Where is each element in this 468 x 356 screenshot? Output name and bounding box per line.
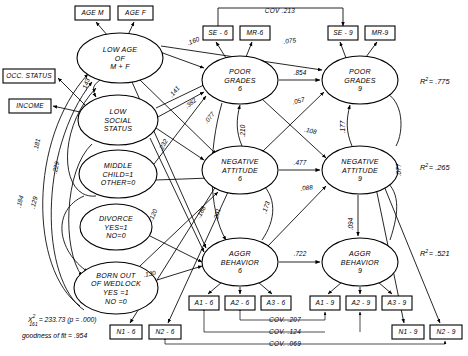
latent-label-line: 9 (358, 85, 362, 93)
indicator-node-n1-9[interactable]: N1 - 9 (392, 325, 424, 339)
latent-label-line: OTHER=0 (101, 179, 136, 187)
indicator-node-mr-6[interactable]: MR-6 (240, 26, 270, 40)
chi-sub: 161 (29, 321, 38, 327)
path-coefficient-coef-aggr-6-neg-att-9: .088 (300, 183, 314, 192)
indicator-node-se-6[interactable]: SE - 6 (203, 26, 233, 40)
path-coefficient-coef-low-age-poor-grades-9: .075 (283, 36, 297, 45)
latent-node-low-age[interactable]: LOW AGEOFM + F (77, 33, 163, 83)
latent-label-line: SOCIAL (104, 117, 132, 125)
edge-poorgrades6-se6 (216, 42, 226, 58)
edge-cov-069 (165, 341, 445, 344)
path-coefficient-coef-wedlock-120: .120 (147, 207, 159, 222)
indicator-node-n1-6[interactable]: N1 - 6 (110, 325, 142, 339)
r2-exponent: 2 (424, 76, 428, 82)
edge-aggr6-a3 (258, 282, 272, 294)
indicator-node-a1-6[interactable]: A1 - 6 (189, 296, 219, 310)
indicator-node-mr-9[interactable]: MR-9 (365, 26, 395, 40)
latent-label-line: LOW (110, 108, 128, 116)
edge-poorgrades9-mr9 (366, 42, 377, 57)
edge-poorgrades6-mr6 (246, 42, 252, 57)
indicator-node-age-m[interactable]: AGE M (75, 6, 110, 20)
fit-statistics: X2161= 233.73 (p = .000) goodness of fit… (22, 313, 97, 340)
latent-node-divorce[interactable]: DIVORCEYES=1NO=0 (80, 204, 152, 250)
edge-aggr9-a3 (378, 282, 392, 294)
indicator-node-n2-6[interactable]: N2 - 6 (149, 325, 181, 339)
latent-label-line: ATTITUDE (341, 167, 378, 175)
latent-node-aggr-behavior-6[interactable]: AGGRBEHAVIOR6 (202, 238, 278, 286)
latent-label-line: 6 (238, 175, 242, 183)
indicator-label: INCOME (16, 102, 44, 109)
latent-label-line: 9 (358, 175, 362, 183)
chi-sup: 2 (32, 313, 36, 319)
latent-node-low-social-status[interactable]: LOWSOCIALSTATUS (78, 95, 158, 145)
indicator-label: SE - 9 (333, 29, 353, 36)
latent-label-line: GRADES (344, 77, 375, 85)
indicator-node-se-9[interactable]: SE - 9 (328, 26, 358, 40)
covariance-cov-se6-se9: COV .213 (265, 7, 296, 14)
path-coefficient-coef-low-age-poor-grades-6: .160 (186, 35, 201, 46)
edge-lowage-social (93, 80, 100, 97)
latent-node-negative-attitude-6[interactable]: NEGATIVEATTITUDE6 (202, 146, 278, 194)
path-coefficient-coef-aggr-6-9: .722 (294, 250, 307, 257)
edge-middlechild-negatt6 (156, 178, 210, 180)
indicator-node-occ-status[interactable]: OCC. STATUS (3, 69, 55, 83)
indicator-label: MR-6 (247, 29, 264, 36)
latent-node-middle-child[interactable]: MIDDLECHILD=1OTHER=0 (79, 150, 157, 198)
latent-variable-nodes: LOW AGEOFM + FLOWSOCIALSTATUSMIDDLECHILD… (74, 33, 398, 314)
indicator-node-a2-9[interactable]: A2 - 9 (346, 296, 376, 310)
indicator-label: N1 - 9 (398, 328, 417, 335)
indicator-node-a3-6[interactable]: A3 - 6 (261, 296, 291, 310)
chi-square-stat: X2161= 233.73 (p = .000) (27, 313, 97, 327)
indicator-label: A3 - 6 (266, 299, 286, 306)
indicator-label: A3 - 9 (387, 299, 407, 306)
indicator-node-a2-6[interactable]: A2 - 6 (225, 296, 255, 310)
indicator-label: A1 - 9 (315, 299, 335, 306)
edge-poorgrades9-se9 (340, 42, 346, 58)
edge-cov-124 (204, 312, 325, 332)
indicator-node-age-f[interactable]: AGE F (118, 6, 153, 20)
path-coefficient-coef-aggr-6-into: .188 (195, 204, 207, 219)
latent-node-aggr-behavior-9[interactable]: AGGRBEHAVIOR9 (322, 238, 398, 286)
path-coefficient-coef-neg-att-9-self: .177 (339, 120, 346, 133)
indicator-node-a3-9[interactable]: A3 - 9 (382, 296, 412, 310)
path-coefficient-coef-social-poor-grades: .141 (167, 84, 181, 98)
latent-node-poor-grades-9[interactable]: POORGRADES9 (322, 56, 398, 104)
indicator-node-n2-9[interactable]: N2 - 9 (430, 325, 462, 339)
path-diagram-canvas: LOW AGEOFM + FLOWSOCIALSTATUSMIDDLECHILD… (0, 0, 468, 356)
latent-label-line: POOR (229, 68, 251, 76)
latent-label-line: AGGR (228, 250, 251, 258)
indicator-label: OCC. STATUS (6, 72, 52, 79)
latent-label-line: M + F (110, 63, 130, 71)
path-coefficient-coef-left-229: .229 (51, 160, 61, 174)
chi-value: = 233.73 (p = .000) (39, 316, 97, 324)
indicator-label: AGE M (80, 9, 104, 16)
latent-label-line: CHILD=1 (102, 171, 133, 179)
latent-label-line: BORN OUT (96, 272, 136, 280)
r-squared-r2-negative-attitude-9: R2= .265 (420, 162, 450, 172)
latent-label-line: GRADES (224, 77, 255, 85)
path-coefficient-coef-left-184: .184 (15, 194, 25, 208)
latent-label-line: MIDDLE (104, 162, 132, 170)
r2-value: = .265 (429, 163, 451, 172)
latent-label-line: BEHAVIOR (341, 259, 379, 267)
path-coefficient-coef-neg-att-9-aggr-9: .094 (347, 217, 354, 230)
indicator-label: N2 - 6 (155, 328, 174, 335)
sem-path-diagram: LOW AGEOFM + FLOWSOCIALSTATUSMIDDLECHILD… (0, 0, 468, 356)
latent-label-line: YES=1 (104, 224, 128, 232)
edge-negatt9-poorgrades9 (347, 105, 352, 146)
path-coefficient-coef-neg-att-6-9: .477 (294, 159, 307, 166)
path-coefficient-coef-aggr-6-into-2: .201 (212, 207, 222, 221)
indicator-node-a1-9[interactable]: A1 - 9 (310, 296, 340, 310)
r2-value: = .775 (429, 77, 451, 86)
latent-node-negative-attitude-9[interactable]: NEGATIVEATTITUDE9 (322, 146, 398, 194)
latent-node-poor-grades-6[interactable]: POORGRADES6 (202, 56, 278, 104)
indicator-node-income[interactable]: INCOME (9, 99, 51, 113)
indicator-label: AGE F (124, 9, 147, 16)
edge-wedlock-aggr6 (157, 266, 202, 280)
path-coefficient-coef-low-age-social: .143 (80, 77, 91, 91)
r-squared-r2-aggr-behavior-9: R2= .521 (420, 248, 450, 258)
r2-exponent: 2 (424, 162, 428, 168)
path-coefficient-coef-poor-grades-6-9: .854 (294, 69, 307, 76)
latent-label-line: POOR (349, 68, 371, 76)
path-coefficient-coef-neg-att-poor-grades-9: .057 (292, 96, 306, 106)
